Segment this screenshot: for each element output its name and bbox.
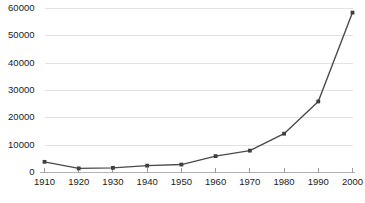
data-point-marker <box>282 132 286 136</box>
y-axis-tick-label: 10000 <box>8 139 34 150</box>
data-point-marker <box>351 11 355 15</box>
x-axis-tick-label: 1980 <box>273 176 294 187</box>
gridlines <box>45 9 353 146</box>
y-axis-tick-label: 30000 <box>8 84 34 95</box>
x-axis-tick-label: 1960 <box>205 176 226 187</box>
x-axis-tick-label: 1970 <box>239 176 260 187</box>
chart-canvas: 0100002000030000400005000060000 19101920… <box>0 0 365 203</box>
data-point-marker <box>43 160 47 164</box>
x-axis-tick-label: 1940 <box>137 176 158 187</box>
y-axis-tick-label: 20000 <box>8 111 34 122</box>
data-point-marker <box>111 166 115 170</box>
data-point-marker <box>316 100 320 104</box>
data-point-marker <box>77 167 81 171</box>
y-axis-tick-label: 50000 <box>8 29 34 40</box>
x-axis-tick-label: 1990 <box>308 176 329 187</box>
y-axis-tick-label: 40000 <box>8 57 34 68</box>
x-axis-tick-label: 1920 <box>68 176 89 187</box>
x-axis-tick-labels: 1910192019301940195019601970198019902000 <box>34 176 363 187</box>
data-point-marker <box>145 164 149 168</box>
data-point-marker <box>179 163 183 167</box>
x-axis-tick-label: 1910 <box>34 176 55 187</box>
data-point-marker <box>248 149 252 153</box>
data-point-marker <box>214 154 218 158</box>
line-chart: 0100002000030000400005000060000 19101920… <box>0 0 365 203</box>
x-axis-tick-label: 1950 <box>171 176 192 187</box>
y-axis-tick-labels: 0100002000030000400005000060000 <box>8 2 34 177</box>
x-axis-tick-label: 1930 <box>102 176 123 187</box>
y-axis-tick-label: 60000 <box>8 2 34 13</box>
x-axis-tick-label: 2000 <box>342 176 363 187</box>
